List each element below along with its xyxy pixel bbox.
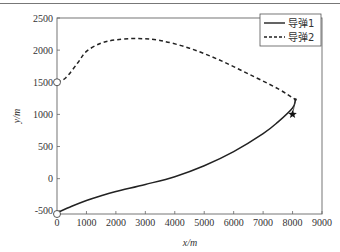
x-tick-label: 6000	[224, 217, 244, 228]
series-group	[57, 39, 296, 213]
x-tick-label: 3000	[135, 217, 155, 228]
intercept-point	[294, 98, 297, 101]
y-tick-label: 2000	[33, 45, 53, 56]
legend-label-missile-2: 导弹2	[288, 31, 314, 43]
plot-area-border	[57, 18, 322, 214]
series-line-missile-2	[57, 39, 296, 100]
start-missile-2-marker	[54, 79, 61, 86]
markers-group	[54, 79, 297, 218]
start-missile-1-marker	[54, 211, 61, 218]
y-tick-label: 1500	[33, 77, 53, 88]
x-tick-label: 1000	[76, 217, 96, 228]
y-axis-label: y/m	[11, 109, 22, 124]
x-axis-label: x/m	[182, 237, 197, 248]
y-tick-label: 2500	[33, 13, 53, 24]
x-tick-label: 2000	[106, 217, 126, 228]
legend-label-missile-1: 导弹1	[288, 17, 314, 29]
legend: 导弹1 导弹2	[260, 14, 321, 46]
y-tick-label: 500	[38, 141, 53, 152]
y-tick-label: -500	[35, 205, 53, 216]
y-tick-label: 1000	[33, 109, 53, 120]
series-line-missile-1	[57, 100, 296, 213]
plot-frame	[57, 18, 322, 214]
x-tick-label: 5000	[194, 217, 214, 228]
x-tick-label: 8000	[283, 217, 303, 228]
x-tick-label: 4000	[165, 217, 185, 228]
trajectory-chart: 0100020003000400050006000700080009000-50…	[0, 0, 340, 252]
x-tick-label: 7000	[253, 217, 273, 228]
y-tick-label: 0	[48, 173, 53, 184]
x-tick-label: 0	[55, 217, 60, 228]
x-tick-label: 9000	[312, 217, 332, 228]
